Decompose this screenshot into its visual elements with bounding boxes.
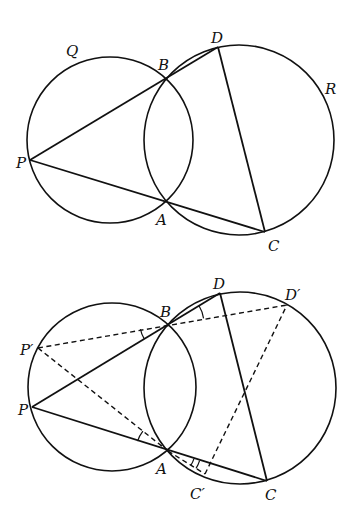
point-label-a: A <box>154 211 167 229</box>
segment-pd <box>30 47 218 160</box>
point-label-p-prime: P′ <box>19 341 34 359</box>
point-label-c-prime: C′ <box>190 485 205 503</box>
circle-q <box>27 57 193 223</box>
point-label-b: B <box>159 303 171 321</box>
angle-mark-b <box>199 306 204 319</box>
point-label-d-prime: D′ <box>284 286 301 304</box>
segment-dc <box>218 47 265 232</box>
circle-label-r: R <box>324 80 336 98</box>
angle-mark-a <box>138 431 143 441</box>
angle-mark-a <box>191 459 194 465</box>
point-label-d: D <box>210 29 223 47</box>
top-figure: QRPBADC <box>15 29 336 255</box>
point-label-p: P <box>17 401 29 419</box>
dashed-segment-c-primed-prime <box>205 305 287 474</box>
point-label-a: A <box>154 460 167 478</box>
circle-label-q: Q <box>66 42 78 60</box>
segment-pd <box>32 293 220 407</box>
point-label-p: P <box>15 154 27 172</box>
point-label-d: D <box>212 275 225 293</box>
segment-pc <box>30 160 265 232</box>
point-label-c: C <box>265 486 277 504</box>
point-label-b: B <box>157 56 169 74</box>
point-label-c: C <box>268 237 280 255</box>
segment-dc <box>220 293 267 481</box>
circle-q <box>28 303 196 471</box>
angle-mark-a <box>196 461 200 469</box>
bottom-figure: PP′BADD′CC′ <box>17 275 336 504</box>
circle-geometry-diagram: QRPBADC PP′BADD′CC′ <box>0 0 360 526</box>
